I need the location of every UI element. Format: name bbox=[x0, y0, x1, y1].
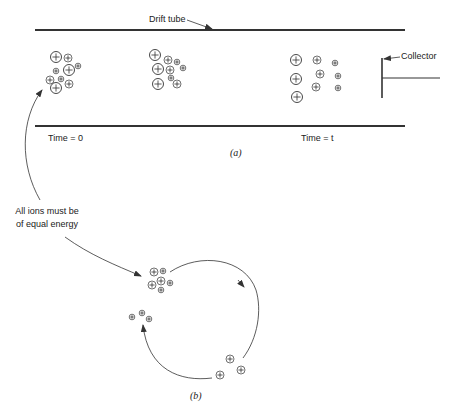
collector-leader-arrow bbox=[384, 57, 400, 59]
positive-ion-icon bbox=[146, 316, 152, 322]
ion-cluster-bottom-right bbox=[216, 355, 245, 379]
positive-ion-icon bbox=[216, 371, 224, 379]
time-t-label: Time = t bbox=[301, 134, 333, 143]
positive-ion-icon bbox=[237, 366, 245, 374]
time-zero-label: Time = 0 bbox=[48, 134, 83, 143]
orbit-arc-top-right bbox=[170, 260, 259, 358]
positive-ion-icon bbox=[332, 60, 338, 66]
annotation-arrow-to-panel-a bbox=[25, 90, 42, 200]
orbit-arrow-right bbox=[238, 280, 244, 287]
positive-ion-icon bbox=[64, 65, 75, 76]
positive-ion-icon bbox=[312, 83, 320, 91]
positive-ion-icon bbox=[64, 54, 72, 62]
positive-ion-icon bbox=[173, 80, 181, 88]
positive-ion-icon bbox=[313, 56, 321, 64]
positive-ion-icon bbox=[180, 65, 186, 71]
positive-ion-icon bbox=[335, 73, 341, 79]
positive-ion-icon bbox=[158, 287, 164, 293]
positive-ion-icon bbox=[291, 55, 302, 66]
positive-ion-icon bbox=[226, 355, 234, 363]
annotation-line-1: All ions must be bbox=[12, 207, 82, 216]
ion-cluster-middle bbox=[150, 50, 186, 90]
positive-ion-icon bbox=[75, 63, 81, 69]
collector-label: Collector bbox=[401, 52, 437, 61]
ion-cluster-left bbox=[129, 310, 152, 322]
positive-ion-icon bbox=[164, 56, 172, 64]
positive-ion-icon bbox=[51, 83, 62, 94]
ions-layer bbox=[46, 50, 341, 380]
positive-ion-icon bbox=[53, 68, 59, 74]
ion-cluster-top bbox=[148, 268, 173, 293]
positive-ion-icon bbox=[335, 85, 341, 91]
positive-ion-icon bbox=[58, 76, 64, 82]
positive-ion-icon bbox=[148, 281, 156, 289]
positive-ion-icon bbox=[46, 76, 54, 84]
positive-ion-icon bbox=[150, 50, 161, 61]
panel-b-caption: (b) bbox=[190, 391, 202, 401]
positive-ion-icon bbox=[316, 70, 324, 78]
positive-ion-icon bbox=[160, 268, 166, 274]
positive-ion-icon bbox=[157, 277, 165, 285]
positive-ion-icon bbox=[292, 92, 303, 103]
positive-ion-icon bbox=[291, 74, 302, 85]
positive-ion-icon bbox=[167, 280, 173, 286]
positive-ion-icon bbox=[51, 52, 62, 63]
positive-ion-icon bbox=[65, 80, 73, 88]
positive-ion-icon bbox=[153, 64, 164, 75]
ion-cluster-time-t bbox=[291, 55, 341, 103]
positive-ion-icon bbox=[150, 268, 158, 276]
orbit-arc-bottom-left bbox=[143, 325, 212, 379]
positive-ion-icon bbox=[166, 66, 174, 74]
annotation-arrow-to-panel-b bbox=[65, 237, 141, 276]
positive-ion-icon bbox=[174, 59, 180, 65]
figure-canvas bbox=[0, 0, 457, 408]
panel-a-caption: (a) bbox=[230, 148, 242, 158]
annotation-line-2: of equal energy bbox=[12, 220, 82, 229]
positive-ion-icon bbox=[153, 79, 164, 90]
drift-tube-leader-arrow bbox=[187, 20, 212, 29]
drift-tube-label: Drift tube bbox=[149, 15, 186, 24]
positive-ion-icon bbox=[168, 75, 174, 81]
positive-ion-icon bbox=[129, 314, 135, 320]
positive-ion-icon bbox=[139, 310, 145, 316]
ion-cluster-time-0 bbox=[46, 52, 81, 94]
